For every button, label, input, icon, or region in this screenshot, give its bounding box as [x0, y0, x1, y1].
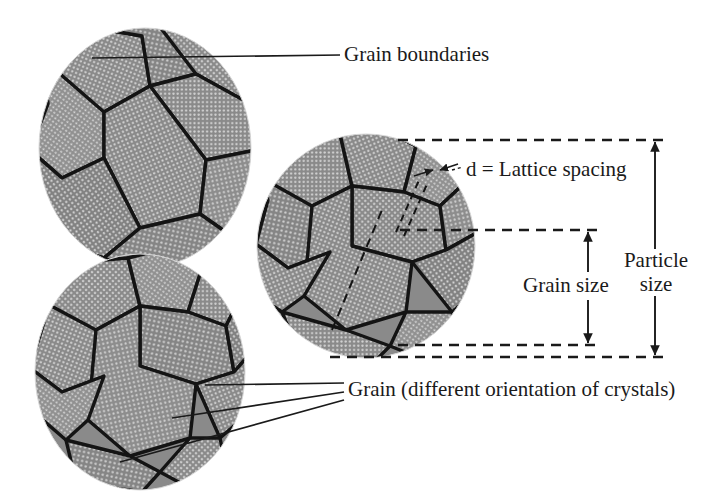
- particle-size-label-line1: Particle: [619, 249, 693, 273]
- lattice-spacing-label: d = Lattice spacing: [466, 158, 627, 182]
- grain-boundaries-label: Grain boundaries: [344, 43, 489, 67]
- grain-size-label: Grain size: [523, 274, 609, 298]
- grain-orientation-label: Grain (different orientation of crystals…: [348, 378, 675, 402]
- particle-size-label-line2: size: [619, 273, 693, 297]
- grain-structure-figure: Grain boundaries d = Lattice spacing Par…: [0, 0, 715, 501]
- figure-graphics: [0, 0, 715, 501]
- middle-right-particle: [252, 128, 482, 366]
- particle-size-label: Particle size: [619, 249, 693, 296]
